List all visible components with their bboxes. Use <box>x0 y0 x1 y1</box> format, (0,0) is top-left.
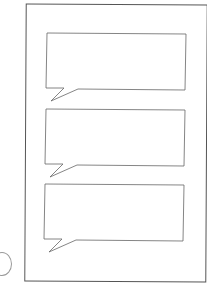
speech-bubble-2 <box>45 109 185 177</box>
speech-bubble-3 <box>44 184 184 252</box>
speech-bubbles <box>0 0 207 285</box>
speech-bubble-1 <box>46 33 186 101</box>
